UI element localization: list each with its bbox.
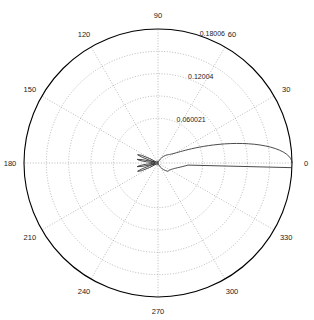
angle-0-label: 0 xyxy=(304,159,308,168)
polar-plot-figure: 0306090120150180210240270300330 0.060021… xyxy=(0,0,314,320)
angle-240-label: 240 xyxy=(78,287,91,296)
grid-spoke xyxy=(91,163,158,279)
angle-300-label: 300 xyxy=(226,287,239,296)
grid-spoke xyxy=(91,47,158,163)
angle-30-label: 30 xyxy=(282,85,290,94)
radial-inner-label: 0.060021 xyxy=(177,116,206,123)
grid-spoke xyxy=(158,163,225,279)
grid-spoke xyxy=(158,163,274,230)
radiation-pattern-curve xyxy=(137,143,292,171)
radial-outer-label: 0.18006 xyxy=(200,30,225,37)
data-series-group xyxy=(137,143,292,171)
grid-spoke xyxy=(158,47,225,163)
angle-330-label: 330 xyxy=(280,233,293,242)
angle-180-label: 180 xyxy=(4,159,17,168)
grid-spoke xyxy=(42,96,158,163)
radial-middle-label: 0.12004 xyxy=(188,73,213,80)
polar-plot-canvas: 0306090120150180210240270300330 0.060021… xyxy=(0,0,314,320)
polar-grid xyxy=(24,29,292,297)
angle-60-label: 60 xyxy=(228,30,236,39)
angle-270-label: 270 xyxy=(152,307,165,316)
angle-210-label: 210 xyxy=(24,233,37,242)
grid-spoke xyxy=(42,163,158,230)
angle-150-label: 150 xyxy=(24,85,37,94)
angle-90-label: 90 xyxy=(154,11,162,20)
radial-tick-labels: 0.0600210.120040.18006 xyxy=(177,30,226,123)
grid-spokes xyxy=(24,29,292,297)
angle-120-label: 120 xyxy=(78,30,91,39)
